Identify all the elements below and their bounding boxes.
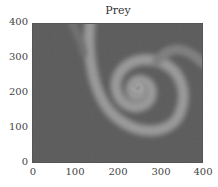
y-tick-400: 400	[0, 16, 28, 27]
chart-title: Prey	[0, 4, 218, 17]
x-tick-400: 400	[188, 166, 218, 177]
y-tick-100: 100	[0, 121, 28, 132]
x-tick-0: 0	[18, 166, 48, 177]
x-tick-200: 200	[103, 166, 133, 177]
y-tick-200: 200	[0, 86, 28, 97]
plot-area	[32, 23, 203, 163]
x-tick-300: 300	[146, 166, 176, 177]
x-tick-100: 100	[60, 166, 90, 177]
spiral-heatmap	[32, 23, 203, 163]
y-tick-300: 300	[0, 51, 28, 62]
